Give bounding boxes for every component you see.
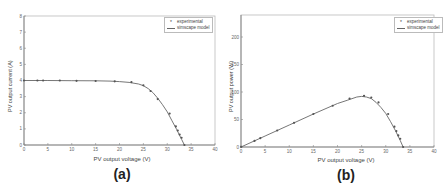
- x-tick-label: 0: [240, 149, 243, 154]
- x-tick-label: 30: [383, 149, 389, 154]
- marker-icon: *: [167, 19, 175, 25]
- x-tick-label: 15: [311, 149, 317, 154]
- x-tick-label: 10: [287, 149, 293, 154]
- x-tick-label: 20: [117, 147, 123, 152]
- y-tick-label: 2: [19, 110, 22, 115]
- experimental-point: [179, 133, 181, 135]
- x-tick-label: 25: [141, 147, 147, 152]
- line-icon: [167, 28, 175, 29]
- experimental-point: [183, 144, 185, 146]
- x-tick-label: 5: [47, 147, 50, 152]
- y-tick-label: 4: [19, 78, 22, 83]
- experimental-point: [23, 79, 25, 81]
- experimental-point: [399, 138, 401, 140]
- y-axis-label: PV output power (W): [228, 61, 234, 112]
- y-tick-label: 7: [19, 30, 22, 35]
- experimental-point: [276, 129, 278, 131]
- legend: *experimental simscape model: [394, 17, 443, 33]
- panel-caption: (a): [0, 166, 224, 182]
- experimental-point: [175, 125, 177, 127]
- chart-panel-a: 0510152025303540012345678 *experimental …: [0, 0, 224, 187]
- y-tick-label: 200: [231, 35, 239, 40]
- experimental-point: [130, 81, 132, 83]
- experimental-point: [395, 130, 397, 132]
- experimental-point: [180, 137, 182, 139]
- experimental-point: [332, 105, 334, 107]
- x-axis-label: PV output voltage (V): [224, 157, 448, 163]
- experimental-point: [253, 140, 255, 142]
- y-tick-label: 8: [19, 14, 22, 19]
- legend-simscape: simscape model: [177, 25, 210, 31]
- x-tick-label: 20: [335, 149, 341, 154]
- x-tick-label: 15: [93, 147, 99, 152]
- x-tick-label: 5: [264, 149, 267, 154]
- y-tick-label: 1: [19, 126, 22, 131]
- experimental-point: [95, 80, 97, 82]
- x-tick-label: 40: [431, 149, 437, 154]
- experimental-point: [157, 98, 159, 100]
- experimental-point: [348, 98, 350, 100]
- x-tick-label: 10: [69, 147, 75, 152]
- experimental-point: [42, 79, 44, 81]
- y-tick-label: 3: [19, 94, 22, 99]
- y-tick-label: 6: [19, 46, 22, 51]
- experimental-point: [240, 146, 242, 148]
- experimental-point: [59, 79, 61, 81]
- experimental-point: [397, 134, 399, 136]
- x-tick-label: 25: [359, 149, 365, 154]
- experimental-point: [75, 80, 77, 82]
- y-tick-label: 5: [19, 62, 22, 67]
- plot-frame: [241, 15, 434, 147]
- line-icon: [397, 28, 405, 29]
- x-tick-label: 40: [212, 147, 218, 152]
- x-tick-label: 35: [407, 149, 413, 154]
- experimental-point: [312, 113, 314, 115]
- experimental-point: [177, 129, 179, 131]
- experimental-point: [114, 80, 116, 82]
- experimental-point: [259, 137, 261, 139]
- experimental-point: [370, 96, 372, 98]
- panel-caption: (b): [224, 167, 448, 183]
- experimental-point: [363, 95, 365, 97]
- experimental-point: [36, 79, 38, 81]
- x-axis-label: PV output voltage (V): [0, 156, 224, 162]
- chart-panel-b: 0510152025303540050100150200 *experiment…: [224, 0, 448, 187]
- experimental-point: [149, 90, 151, 92]
- marker-icon: *: [397, 19, 405, 25]
- legend: *experimental simscape model: [164, 17, 213, 33]
- experimental-point: [142, 84, 144, 86]
- experimental-point: [293, 122, 295, 124]
- experimental-point: [169, 112, 171, 114]
- experimental-point: [387, 113, 389, 115]
- x-tick-label: 30: [165, 147, 171, 152]
- x-tick-label: 35: [189, 147, 195, 152]
- y-axis-label: PV output current (A): [7, 60, 13, 112]
- y-tick-label: 50: [234, 117, 240, 122]
- x-tick-label: 0: [23, 147, 26, 152]
- experimental-point: [377, 101, 379, 103]
- legend-simscape: simscape model: [407, 25, 440, 31]
- experimental-point: [393, 126, 395, 128]
- experimental-point: [402, 146, 404, 148]
